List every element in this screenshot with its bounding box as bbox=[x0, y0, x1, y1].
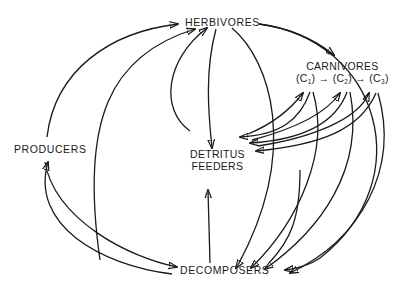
arrow-herbivores-right-to-decomposers bbox=[270, 170, 300, 262]
arrow-herbivores-to-detritus bbox=[208, 29, 216, 148]
detritus-label-line1: DETRITUS bbox=[190, 148, 245, 160]
arrow-producers-to-decomposers bbox=[45, 162, 177, 267]
arrow-c2-to-detritus bbox=[250, 92, 347, 143]
herbivores-node: HERBIVORES bbox=[185, 16, 260, 28]
carnivores-chain: (C1) → (C2) → (C3) bbox=[296, 72, 389, 88]
herbivores-label: HERBIVORES bbox=[185, 16, 260, 28]
arrow-herbivores-to-decomposers-a bbox=[232, 28, 274, 265]
arrow-c3-to-decomposers bbox=[290, 93, 384, 273]
arrow-decomposers-to-herbivores bbox=[94, 29, 195, 260]
arrow-detritus-to-c1 bbox=[248, 93, 303, 134]
carnivores-label: CARNIVORES bbox=[296, 60, 389, 72]
producers-label: PRODUCERS bbox=[14, 143, 87, 155]
carnivores-node: CARNIVORES (C1) → (C2) → (C3) bbox=[296, 60, 389, 88]
arrow-herbivores-to-carnivores bbox=[259, 24, 334, 55]
decomposers-label: DECOMPOSERS bbox=[180, 264, 269, 276]
detritus-label-line2: FEEDERS bbox=[190, 160, 245, 172]
arrow-c1-to-decomposers bbox=[251, 92, 318, 268]
detritus-feeders-node: DETRITUS FEEDERS bbox=[190, 148, 245, 172]
decomposers-node: DECOMPOSERS bbox=[180, 264, 269, 276]
arrow-decomposers-to-producers bbox=[45, 162, 172, 274]
arrow-decomposers-to-detritus bbox=[208, 190, 210, 263]
producers-node: PRODUCERS bbox=[14, 143, 87, 155]
arrow-detritus-to-herbivores bbox=[171, 28, 207, 131]
arrow-producers-to-herbivores bbox=[47, 24, 178, 137]
arrow-c1-to-detritus bbox=[240, 92, 310, 137]
